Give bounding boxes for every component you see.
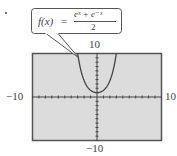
- ymin-label: −10: [86, 143, 103, 154]
- formula-equals: =: [61, 15, 67, 27]
- function-formula: f(x) = eˣ + e⁻ˣ 2: [34, 9, 120, 33]
- formula-denominator: 2: [91, 22, 96, 32]
- formula-lhs: f(x): [38, 15, 53, 27]
- xmin-label: −10: [6, 91, 23, 102]
- xmax-label: 10: [165, 91, 176, 102]
- formula-numerator: eˣ + e⁻ˣ: [74, 9, 102, 19]
- graph-figure: f(x) = eˣ + e⁻ˣ 2 10 −10 −10 10: [0, 0, 177, 156]
- ymax-label: 10: [89, 39, 100, 50]
